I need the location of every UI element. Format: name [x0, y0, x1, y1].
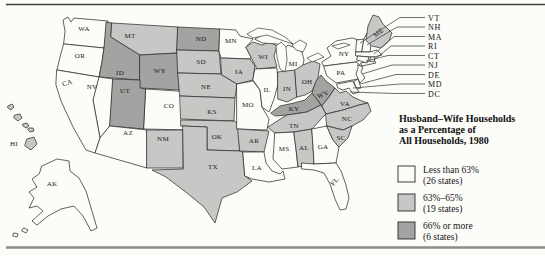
choropleth-map-figure: WA OR CA NV ID MT WY UT CO AZ NM ND SD N…: [0, 0, 545, 256]
label-ky: KY: [289, 105, 300, 113]
label-mt: MT: [124, 32, 136, 40]
label-ms: MS: [279, 145, 290, 153]
title-line-3: All Households, 1980: [399, 135, 489, 146]
state-hi-island-4: [28, 128, 34, 132]
label-oh: OH: [302, 78, 313, 86]
label-nm: NM: [157, 135, 169, 143]
legend-label-low: Less than 63%: [423, 165, 479, 175]
label-ny: NY: [339, 50, 350, 58]
legend-swatch-mid: [398, 194, 415, 211]
title-line-1: Husband–Wife Households: [399, 113, 515, 124]
label-nv: NV: [87, 83, 98, 91]
label-ar: AR: [249, 137, 259, 145]
callout-label-de: DE: [428, 71, 440, 80]
callout-label-nh: NH: [428, 23, 441, 32]
label-ne: NE: [201, 83, 211, 91]
label-sc: SC: [336, 134, 345, 142]
label-wi: WI: [258, 53, 268, 61]
callout-label-ri: RI: [428, 42, 437, 51]
textbook-figure: WA OR CA NV ID MT WY UT CO AZ NM ND SD N…: [0, 0, 545, 256]
label-wa: WA: [78, 25, 90, 33]
label-co: CO: [164, 102, 174, 110]
label-la: LA: [252, 164, 262, 172]
label-tx: TX: [208, 163, 218, 171]
label-mn: MN: [225, 37, 237, 45]
label-al: AL: [299, 144, 309, 152]
ak-aleutian-island-2: [13, 233, 18, 237]
label-or: OR: [75, 52, 85, 60]
callout-label-ma: MA: [428, 33, 442, 42]
legend-swatch-low: [398, 166, 415, 182]
label-il: IL: [263, 86, 270, 94]
label-mo: MO: [242, 101, 254, 109]
label-ak: AK: [47, 180, 58, 188]
callout-label-ct: CT: [428, 52, 439, 61]
label-ut: UT: [120, 87, 130, 95]
title-line-2: as a Percentage of: [399, 124, 476, 135]
legend-sublabel-low: (26 states): [423, 176, 462, 187]
label-ok: OK: [212, 133, 223, 141]
label-az: AZ: [123, 129, 133, 137]
label-mi: MI: [288, 60, 298, 68]
callout-label-dc: DC: [428, 90, 440, 99]
label-id: ID: [116, 69, 124, 77]
legend-swatch-high: [398, 222, 415, 239]
label-nc: NC: [342, 115, 352, 123]
legend-label-mid: 63%–65%: [423, 193, 463, 203]
label-sd: SD: [196, 58, 206, 66]
callout-label-nj: NJ: [428, 61, 438, 70]
label-hi: HI: [10, 140, 18, 148]
label-ks: KS: [207, 108, 217, 116]
label-ga: GA: [318, 143, 329, 151]
legend-label-high: 66% or more: [423, 221, 473, 231]
label-nd: ND: [196, 35, 207, 43]
callout-label-md: MD: [428, 80, 442, 89]
legend-sublabel-mid: (19 states): [423, 204, 462, 215]
label-wy: WY: [154, 67, 166, 75]
callout-label-vt: VT: [428, 14, 440, 23]
legend-sublabel-high: (6 states): [423, 232, 458, 243]
label-in: IN: [283, 85, 291, 93]
label-ia: IA: [235, 68, 243, 76]
label-tn: TN: [289, 122, 299, 130]
label-pa: PA: [337, 69, 346, 77]
label-va: VA: [340, 100, 350, 108]
